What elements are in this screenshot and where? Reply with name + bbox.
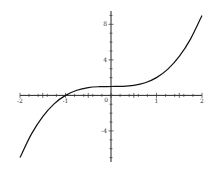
- x-tick-label: 2: [200, 97, 204, 104]
- origin-label: 0: [104, 96, 108, 103]
- x-tick-label: 1: [155, 97, 159, 104]
- x-tick-label: -2: [17, 97, 23, 104]
- y-tick-label: 8: [103, 20, 107, 27]
- x-tick-label: -1: [63, 97, 69, 104]
- y-tick-label: 4: [103, 56, 107, 63]
- y-tick-label: -4: [101, 127, 107, 134]
- chart: -2-11284-40: [0, 0, 216, 171]
